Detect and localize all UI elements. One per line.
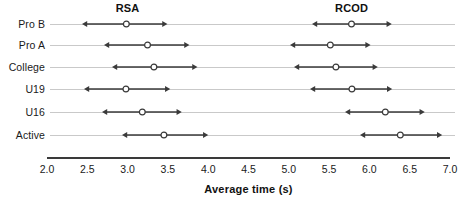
category-label: Active xyxy=(0,129,45,141)
chart-figure: Pro BPro ACollegeU19U16Active RSARCOD 2.… xyxy=(0,0,461,204)
x-tick-label: 5.0 xyxy=(281,163,296,175)
x-tick-label: 6.0 xyxy=(362,163,377,175)
x-tick-label: 2.0 xyxy=(40,163,55,175)
category-label: U16 xyxy=(0,106,45,118)
x-tick-label: 3.5 xyxy=(161,163,176,175)
x-tick-label: 4.0 xyxy=(201,163,216,175)
x-tick-label: 6.5 xyxy=(402,163,417,175)
x-axis-title: Average time (s) xyxy=(204,183,292,195)
interval-marker xyxy=(78,85,176,94)
x-tick-label: 7.0 xyxy=(443,163,458,175)
interval-marker xyxy=(98,41,195,50)
series-group-header: RSA xyxy=(116,2,140,14)
category-label: U19 xyxy=(0,83,45,95)
interval-marker xyxy=(284,41,377,50)
category-label: Pro B xyxy=(0,18,45,30)
series-group-header: RCOD xyxy=(335,2,368,14)
x-tick-label: 4.5 xyxy=(241,163,256,175)
x-tick-label: 3.0 xyxy=(120,163,135,175)
interval-marker xyxy=(339,108,431,117)
x-tick-label: 2.5 xyxy=(80,163,95,175)
interval-marker xyxy=(106,63,203,72)
category-label: College xyxy=(0,61,45,73)
x-tick-label: 5.5 xyxy=(322,163,337,175)
interval-marker xyxy=(116,131,214,140)
x-axis-line xyxy=(47,157,450,159)
interval-marker xyxy=(354,131,448,140)
interval-marker xyxy=(306,20,398,29)
interval-marker xyxy=(96,108,188,117)
interval-marker xyxy=(288,63,384,72)
category-label: Pro A xyxy=(0,39,45,51)
interval-marker xyxy=(304,85,398,94)
interval-marker xyxy=(76,20,173,29)
